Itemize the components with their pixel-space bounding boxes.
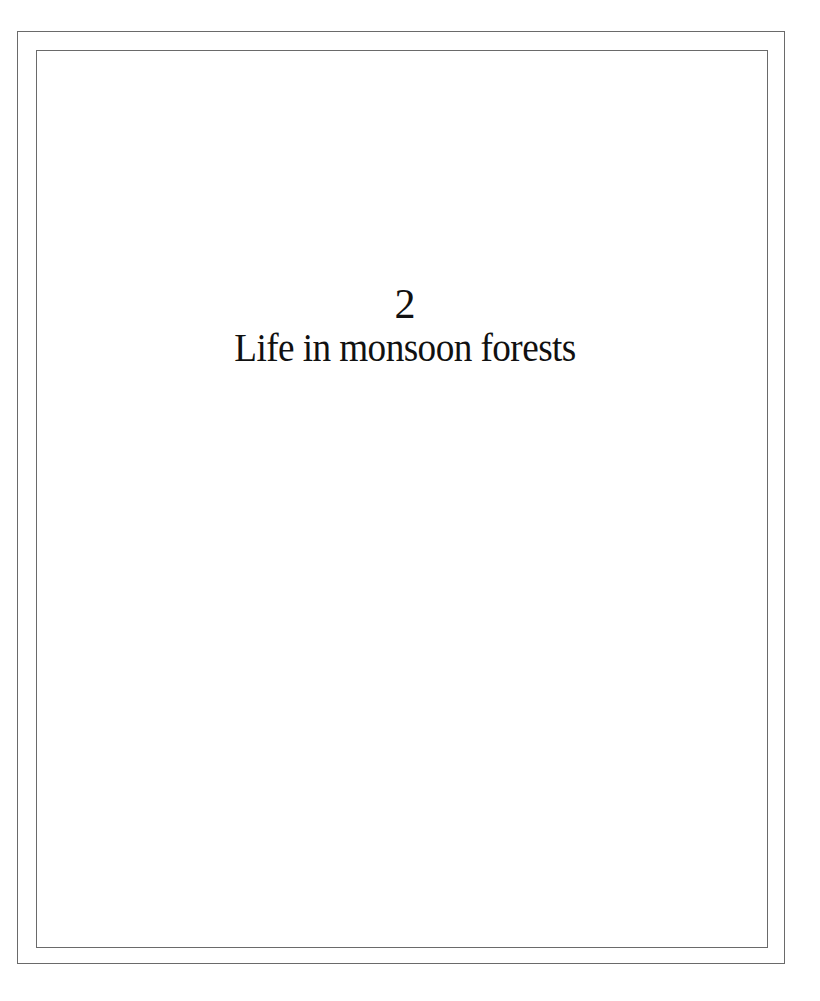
chapter-number: 2 (0, 282, 810, 326)
chapter-heading: 2 Life in monsoon forests (0, 282, 810, 370)
inner-page-border (36, 50, 768, 948)
chapter-title: Life in monsoon forests (28, 326, 781, 370)
